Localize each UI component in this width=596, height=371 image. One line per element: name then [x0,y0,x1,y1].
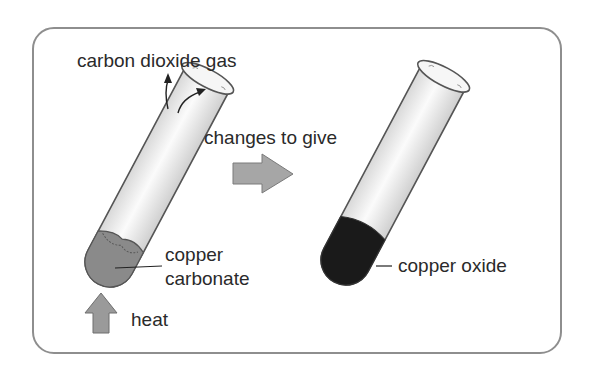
heat-arrow-icon [85,293,117,333]
label-copper: copper [165,244,223,266]
label-carbonate: carbonate [165,268,250,290]
transition-arrow-icon [233,154,293,193]
label-carbon-dioxide-gas: carbon dioxide gas [77,50,237,72]
label-copper-oxide: copper oxide [398,255,507,277]
label-changes-to-give: changes to give [204,127,337,149]
label-heat: heat [131,309,168,331]
